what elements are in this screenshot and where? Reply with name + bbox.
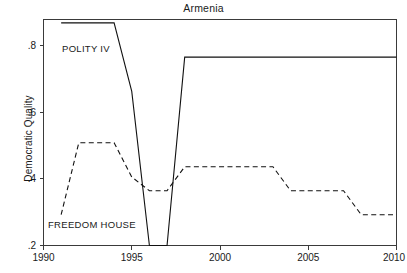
x-tick-label-2000: 2000 bbox=[209, 252, 232, 263]
series-line-polity-iv bbox=[61, 23, 396, 246]
y-tick-label-08: .8 bbox=[28, 40, 37, 51]
series-line-freedom-house bbox=[61, 143, 396, 215]
x-tick-label-2005: 2005 bbox=[297, 252, 320, 263]
x-axis-ticks bbox=[44, 246, 397, 250]
y-tick-label-04: .4 bbox=[28, 173, 37, 184]
x-tick-label-1995: 1995 bbox=[121, 252, 144, 263]
series-annotation-freedom-house: FREEDOM HOUSE bbox=[48, 219, 136, 230]
y-axis-ticks bbox=[40, 46, 44, 246]
plot-area: .8 .6 .4 .2 1990 1995 2000 2005 2010 POL… bbox=[0, 0, 407, 273]
y-axis-tick-labels: .8 .6 .4 .2 bbox=[28, 40, 37, 251]
x-tick-label-2010: 2010 bbox=[383, 252, 406, 263]
series-annotation-polity-iv: POLITY IV bbox=[62, 43, 110, 54]
x-tick-label-1990: 1990 bbox=[32, 252, 55, 263]
x-axis-tick-labels: 1990 1995 2000 2005 2010 bbox=[32, 252, 405, 263]
y-tick-label-02: .2 bbox=[28, 240, 37, 251]
chart-figure: Armenia Democratic Quality .8 .6 .4 .2 1… bbox=[0, 0, 407, 273]
y-tick-label-06: .6 bbox=[28, 107, 37, 118]
